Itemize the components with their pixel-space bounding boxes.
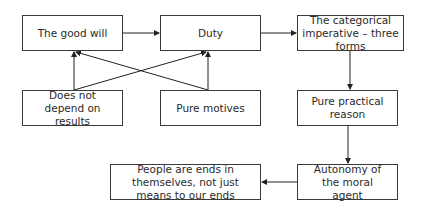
node-does-not-depend: Does not depend on results [22,90,123,126]
node-people-are-ends: People are ends in themselves, not just … [110,164,261,200]
node-label: Does not depend on results [23,89,122,128]
node-autonomy: Autonomy of the moral agent [297,164,398,200]
node-label: People are ends in themselves, not just … [111,163,260,202]
node-label: Duty [198,27,223,40]
node-label: Pure motives [176,102,245,115]
node-label: The categorical imperative – three forms [298,14,403,53]
node-good-will: The good will [22,15,123,51]
node-label: Pure practical reason [298,95,397,121]
node-categorical-imperative: The categorical imperative – three forms [297,15,404,51]
node-pure-motives: Pure motives [160,90,261,126]
arrow-puremotives-goodwill [76,52,208,90]
node-label: The good will [38,27,108,40]
node-pure-practical-reason: Pure practical reason [297,90,398,126]
arrow-notdepend-duty [74,52,206,90]
node-label: Autonomy of the moral agent [298,163,397,202]
node-duty: Duty [160,15,261,51]
